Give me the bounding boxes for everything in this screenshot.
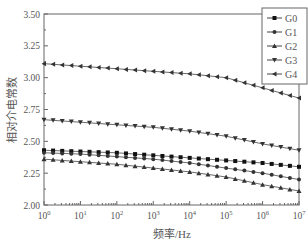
triangle-left-marker xyxy=(105,66,110,71)
triangle-left-marker xyxy=(215,74,220,79)
triangle-left-marker xyxy=(196,72,201,77)
series-line xyxy=(44,120,299,151)
circle-marker xyxy=(206,164,210,168)
triangle-left-marker xyxy=(169,70,174,75)
triangle-left-marker xyxy=(205,73,210,78)
triangle-left-marker xyxy=(151,69,156,74)
y-tick-label: 2.25 xyxy=(23,169,40,179)
triangle-left-marker xyxy=(133,68,138,73)
x-axis: 100101102103104105106107 xyxy=(38,201,307,221)
circle-marker xyxy=(297,178,301,182)
triangle-left-marker xyxy=(251,83,256,88)
triangle-left-marker xyxy=(242,80,247,85)
series-g0 xyxy=(42,148,301,169)
circle-marker xyxy=(160,158,164,162)
y-tick-label: 3.25 xyxy=(23,41,40,51)
x-tick-label: 103 xyxy=(147,209,160,221)
plot-frame xyxy=(44,14,299,205)
y-tick-label: 3.50 xyxy=(23,10,40,20)
circle-marker xyxy=(224,166,228,170)
square-marker xyxy=(124,151,128,155)
triangle-left-marker xyxy=(278,90,283,95)
square-marker xyxy=(297,165,301,169)
circle-marker xyxy=(78,152,82,156)
circle-marker xyxy=(60,151,64,155)
circle-marker xyxy=(197,162,201,166)
square-marker xyxy=(288,164,292,168)
triangle-left-marker xyxy=(60,62,65,67)
triangle-left-marker xyxy=(87,64,92,69)
square-marker xyxy=(106,150,110,154)
y-tick-label: 2.00 xyxy=(23,201,40,211)
square-marker xyxy=(188,156,192,160)
y-tick-label: 3.00 xyxy=(23,73,40,83)
square-marker xyxy=(179,155,183,159)
series-g3 xyxy=(42,118,302,153)
x-tick-label: 104 xyxy=(183,209,197,221)
circle-marker xyxy=(124,155,128,159)
legend-label: G1 xyxy=(285,27,297,38)
triangle-down-marker xyxy=(297,148,302,153)
circle-marker xyxy=(151,157,155,161)
square-marker xyxy=(273,16,277,20)
circle-marker xyxy=(170,159,174,163)
circle-marker xyxy=(261,171,265,175)
square-marker xyxy=(242,160,246,164)
triangle-left-marker xyxy=(178,71,183,76)
triangle-left-marker xyxy=(69,63,74,68)
square-marker xyxy=(270,162,274,166)
triangle-left-marker xyxy=(114,66,119,71)
circle-marker xyxy=(215,165,219,169)
y-tick-label: 2.50 xyxy=(23,137,40,147)
square-marker xyxy=(206,157,210,161)
dielectric-constant-chart: 2.002.252.502.753.003.253.50 10010110210… xyxy=(0,0,308,245)
circle-marker xyxy=(233,167,237,171)
triangle-left-marker xyxy=(123,67,128,72)
x-tick-label: 107 xyxy=(293,209,307,221)
x-tick-label: 100 xyxy=(38,209,51,221)
x-tick-label: 106 xyxy=(256,209,270,221)
triangle-left-marker xyxy=(187,71,192,76)
circle-marker xyxy=(115,155,119,159)
circle-marker xyxy=(288,176,292,180)
square-marker xyxy=(160,154,164,158)
triangle-left-marker xyxy=(96,65,101,70)
x-tick-label: 102 xyxy=(110,209,123,221)
square-marker xyxy=(279,163,283,167)
series-line xyxy=(44,64,299,98)
legend: G0G1G2G3G4 xyxy=(262,8,307,84)
square-marker xyxy=(151,153,155,157)
triangle-left-marker xyxy=(78,64,83,69)
square-marker xyxy=(142,153,146,157)
legend-label: G3 xyxy=(285,55,297,66)
square-marker xyxy=(115,151,119,155)
legend-label: G4 xyxy=(285,69,297,80)
square-marker xyxy=(215,158,219,162)
y-axis-label: 相对介电常数 xyxy=(5,77,18,143)
y-tick-label: 2.75 xyxy=(23,105,40,115)
circle-marker xyxy=(69,152,73,156)
square-marker xyxy=(197,157,201,161)
triangle-left-marker xyxy=(233,78,238,83)
circle-marker xyxy=(42,151,46,155)
triangle-left-marker xyxy=(160,69,165,74)
circle-marker xyxy=(242,169,246,173)
circle-marker xyxy=(270,173,274,177)
square-marker xyxy=(251,160,255,164)
chart-canvas: 2.002.252.502.753.003.253.50 10010110210… xyxy=(0,0,308,245)
circle-marker xyxy=(142,157,146,161)
square-marker xyxy=(133,152,137,156)
circle-marker xyxy=(88,153,92,157)
triangle-left-marker xyxy=(260,85,265,90)
square-marker xyxy=(224,158,228,162)
circle-marker xyxy=(279,174,283,178)
square-marker xyxy=(233,159,237,163)
plot-border xyxy=(44,14,299,205)
legend-label: G0 xyxy=(285,13,297,24)
circle-marker xyxy=(188,161,192,165)
triangle-left-marker xyxy=(287,93,292,98)
square-marker xyxy=(170,155,174,159)
circle-marker xyxy=(106,154,110,158)
circle-marker xyxy=(51,151,55,155)
x-tick-label: 101 xyxy=(74,209,87,221)
